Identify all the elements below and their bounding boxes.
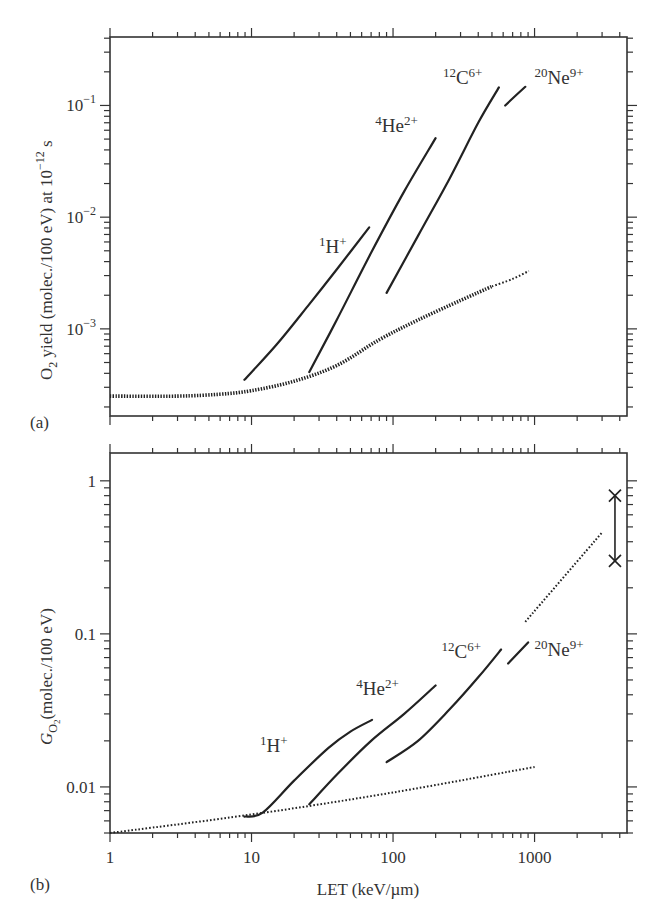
- panel-b-ytick-labels: 10.10.01: [66, 472, 96, 797]
- series-dotted-reference: [110, 286, 492, 396]
- panel-a-y-axis-title: O2 yield (molec./100 eV) at 10−12 s: [33, 140, 60, 380]
- series-12c6-: [387, 650, 502, 763]
- curve-label-12c6-: 12C6+: [443, 65, 483, 88]
- series-4he2-: [309, 686, 435, 805]
- series-dotted-high-let: [525, 532, 602, 621]
- curve-label-20ne9-: 20Ne9+: [535, 65, 584, 88]
- curve-label-20ne9-: 20Ne9+: [535, 637, 584, 660]
- panel-b-label: (b): [30, 875, 50, 894]
- series-20ne9-: [505, 87, 525, 106]
- y-tick-label: 1: [88, 472, 97, 491]
- x-tick-label: 1: [106, 848, 115, 867]
- panel-b: 10.10.01 1101001000 1H+4He2+12C6+20Ne9+ …: [30, 444, 637, 899]
- x-tick-label: 1000: [518, 848, 552, 867]
- panel-a-frame: [110, 37, 627, 416]
- y-tick-label: 10−3: [66, 316, 96, 339]
- panel-a-label: (a): [30, 413, 49, 432]
- curve-label-1h-: 1H+: [260, 733, 288, 756]
- panel-b-y-axis-title: GO2(molec./100 eV): [37, 608, 62, 745]
- chart: 10−110−210−3 1H+4He2+12C6+20Ne9+ O2 yiel…: [0, 0, 662, 923]
- curve-label-4he2-: 4He2+: [375, 113, 418, 136]
- x-tick-label: 100: [380, 848, 406, 867]
- x-axis-title: LET (keV/µm): [317, 880, 419, 899]
- panel-a: 10−110−210−3 1H+4He2+12C6+20Ne9+ O2 yiel…: [30, 28, 637, 432]
- panel-b-xtick-labels: 1101001000: [106, 848, 552, 867]
- y-tick-label: 0.01: [66, 778, 96, 797]
- series-20ne9-: [508, 642, 528, 663]
- panel-a-curve-labels: 1H+4He2+12C6+20Ne9+: [319, 65, 584, 257]
- curve-label-4he2-: 4He2+: [356, 676, 399, 699]
- y-tick-label: 0.1: [75, 625, 96, 644]
- x-tick-label: 10: [243, 848, 260, 867]
- curve-label-12c6-: 12C6+: [441, 639, 481, 662]
- panel-a-ytick-labels: 10−110−210−3: [66, 92, 96, 338]
- panel-b-series: [110, 490, 621, 833]
- series-dotted-reference: [110, 767, 535, 833]
- y-tick-label: 10−1: [66, 92, 96, 115]
- curve-label-1h-: 1H+: [319, 234, 347, 257]
- series-dotted-reference-tail: [492, 271, 529, 286]
- y-tick-label: 10−2: [66, 204, 96, 227]
